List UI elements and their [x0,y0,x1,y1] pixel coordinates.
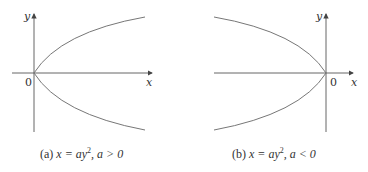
caption-b: (b) x = ay2, a < 0 [232,146,316,162]
parabola-curve [34,17,145,130]
caption-condition: , a > 0 [91,147,123,161]
caption-a: (a) x = ay2, a > 0 [40,146,123,162]
caption-equation: x = ay [249,147,280,161]
origin-label: 0 [330,76,337,89]
origin-label: 0 [25,76,32,89]
caption-condition: , a < 0 [284,147,316,161]
y-axis-label: y [23,10,31,23]
y-axis-label: y [315,10,323,23]
caption-prefix: (a) [40,147,53,161]
caption-equation: x = ay [56,147,87,161]
panel-b-graph: y x 0 [214,10,358,132]
caption-prefix: (b) [232,147,246,161]
parabola-curve [214,17,326,130]
panel-a-graph: y x 0 [12,10,153,132]
x-axis-label: x [146,76,153,89]
x-axis-label: x [351,76,358,89]
